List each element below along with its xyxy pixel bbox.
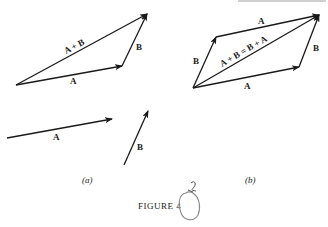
label-a: A <box>70 76 77 86</box>
vector-b-right <box>299 15 319 67</box>
figure-caption: FIGURE 4 <box>138 201 181 211</box>
vector-a-plus-b <box>16 14 147 85</box>
vector-addition-figure: A B A + B A B A B B A A + B = B + A (a) … <box>0 0 328 227</box>
separate-label-b: B <box>137 142 143 152</box>
handwritten-circle-annotation <box>179 182 199 220</box>
caption-b: (b) <box>245 175 256 185</box>
panel-b-parallelogram: A B B A A + B = B + A <box>193 15 319 91</box>
vector-b <box>122 14 147 66</box>
label-b: B <box>136 42 142 52</box>
separate-label-a: A <box>53 132 60 142</box>
label-a-top: A <box>258 16 265 26</box>
label-a-bottom: A <box>244 81 251 91</box>
label-diagonal: A + B = B + A <box>218 33 269 68</box>
panel-a-triangle: A B A + B <box>16 14 147 86</box>
separate-vector-a <box>7 119 112 138</box>
vector-a <box>16 66 122 85</box>
vector-diagonal <box>193 15 319 88</box>
panel-a-separate-vectors: A B <box>7 111 148 165</box>
label-b-left: B <box>193 56 199 66</box>
vector-a-top <box>216 15 319 37</box>
separate-vector-b <box>124 111 148 165</box>
header-fragment <box>238 0 326 2</box>
label-b-right: B <box>313 43 319 53</box>
caption-a: (a) <box>82 175 93 185</box>
